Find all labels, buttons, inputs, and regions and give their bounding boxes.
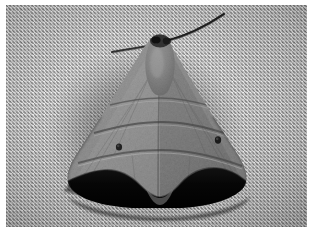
photo-alt-text: Black-and-white photograph of a triangul… xyxy=(0,0,1,1)
discal-spot-right xyxy=(215,136,221,143)
photograph-plate xyxy=(6,5,307,227)
right-antenna xyxy=(166,14,225,42)
photograph-frame: Black-and-white photograph of a triangul… xyxy=(0,0,314,234)
moth-subject xyxy=(6,5,307,227)
discal-spot-left xyxy=(116,143,122,150)
